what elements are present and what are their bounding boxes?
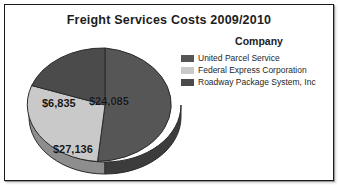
legend-item-federal-express-corporation[interactable]: Federal Express Corporation (181, 65, 331, 75)
legend-label: Federal Express Corporation (198, 66, 307, 75)
legend-item-roadway-package-system[interactable]: Roadway Package System, Inc (181, 77, 331, 87)
legend-label: Roadway Package System, Inc (198, 78, 316, 87)
legend-swatch-icon (181, 55, 194, 62)
chart-frame: Freight Services Costs 2009/2010 $24,085… (4, 4, 334, 181)
pie-chart: $24,085 $27,136 $6,835 (23, 35, 188, 175)
pie-label-united-parcel-service: $24,085 (89, 95, 129, 107)
legend-swatch-icon (181, 67, 194, 74)
legend-label: United Parcel Service (198, 54, 280, 63)
chart-title: Freight Services Costs 2009/2010 (5, 13, 333, 27)
legend-title: Company (181, 35, 331, 47)
pie-label-roadway-package-system: $6,835 (42, 97, 76, 109)
legend: Company United Parcel Service Federal Ex… (181, 35, 331, 89)
pie-label-federal-express-corporation: $27,136 (53, 143, 93, 155)
legend-item-united-parcel-service[interactable]: United Parcel Service (181, 53, 331, 63)
legend-swatch-icon (181, 79, 194, 86)
